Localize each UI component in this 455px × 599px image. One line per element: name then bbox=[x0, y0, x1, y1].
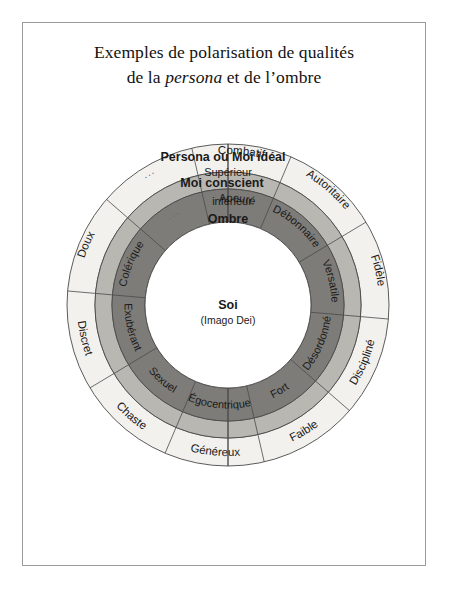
ring-inner-subheading: inférieur bbox=[212, 195, 252, 207]
core-label: Soi bbox=[218, 298, 237, 312]
ring-inner-heading: Ombre bbox=[208, 212, 248, 226]
ring-middle-heading: Moi conscient bbox=[180, 176, 264, 190]
polarisation-wheel: CombatifApeuréAutoritaireDébonnaireFidèl… bbox=[0, 0, 455, 599]
page-root: Exemples de polarisation de qualités de … bbox=[0, 0, 455, 599]
core-sublabel: (Imago Dei) bbox=[201, 314, 256, 326]
ring-outer-heading: Persona ou Moi idéal bbox=[160, 150, 285, 164]
